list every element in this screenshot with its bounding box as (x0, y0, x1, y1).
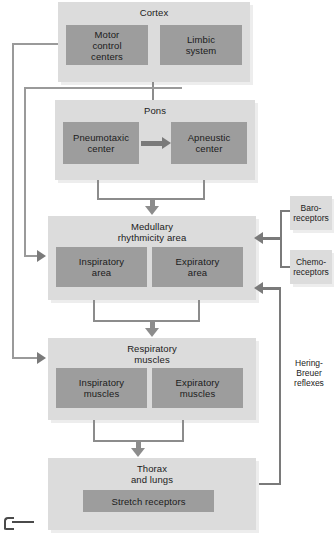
connector-medulla-join-bar (93, 320, 200, 322)
connector-hering-breuer-vertical (279, 289, 281, 485)
node-pons: Pons Pneumotaxic center Apneustic center (55, 100, 255, 180)
box-inspiratory-muscles: Inspiratory muscles (56, 368, 147, 408)
cortex-title: Cortex (58, 7, 250, 18)
arrow-medulla-to-muscles-head (145, 328, 159, 337)
connector-cortex-outer-vertical (12, 43, 14, 359)
connector-pons-drop-right (203, 180, 205, 200)
node-baroreceptors: Baro- receptors (290, 196, 332, 230)
connector-cortex-inner-vertical (24, 87, 26, 257)
medulla-title: Medullary rhythmicity area (48, 221, 256, 243)
respiration-regulation-diagram: Cortex Motor control centers Limbic syst… (0, 0, 334, 538)
thorax-title: Thorax and lungs (48, 463, 256, 485)
connector-cortex-outer-start (12, 43, 58, 45)
connector-pons-drop-left (97, 180, 99, 200)
box-expiratory-area: Expiratory area (152, 247, 243, 287)
pons-title: Pons (55, 105, 255, 116)
arrow-pneumotaxic-to-apneustic-head (162, 137, 171, 149)
scan-artifact-mark (4, 515, 38, 529)
node-cortex: Cortex Motor control centers Limbic syst… (58, 2, 250, 82)
node-thorax-and-lungs: Thorax and lungs Stretch receptors (48, 458, 256, 530)
box-motor-control-centers: Motor control centers (66, 25, 148, 65)
box-pneumotaxic-center: Pneumotaxic center (63, 122, 139, 164)
arrow-hering-breuer-to-medulla-head (254, 282, 263, 294)
box-stretch-receptors: Stretch receptors (83, 490, 214, 512)
connector-cortex-inner-to-medulla (24, 255, 38, 257)
arrow-muscles-to-thorax-head (131, 448, 145, 457)
connector-cortex-inner-start (24, 87, 182, 89)
arrow-cortex-to-muscles-head (37, 352, 46, 364)
box-inspiratory-area: Inspiratory area (56, 247, 147, 287)
baroreceptors-label: Baro- receptors (293, 203, 328, 223)
box-limbic-system: Limbic system (160, 25, 242, 65)
chemoreceptors-label: Chemo- receptors (293, 257, 328, 277)
scan-artifact-hook (4, 517, 14, 530)
box-apneustic-center: Apneustic center (171, 122, 247, 164)
arrow-cortex-to-medulla-head (37, 250, 46, 262)
box-expiratory-muscles: Expiratory muscles (152, 368, 243, 408)
arrow-receptors-to-medulla-head (254, 232, 263, 244)
node-respiratory-muscles: Respiratory muscles Inspiratory muscles … (48, 338, 256, 420)
scan-artifact-bar (12, 521, 34, 523)
muscles-title: Respiratory muscles (48, 343, 256, 365)
connector-muscles-drop-right (182, 420, 184, 442)
connector-cortex-outer-to-muscles (12, 357, 38, 359)
connector-medulla-drop-right (198, 300, 200, 322)
connector-muscles-drop-left (93, 420, 95, 442)
label-hering-breuer-reflexes: Hering- Breuer reflexes (286, 358, 332, 388)
connector-receptors-to-medulla (263, 237, 282, 240)
connector-cortex-to-pons (152, 82, 154, 100)
node-chemoreceptors: Chemo- receptors (290, 250, 332, 284)
node-medullary-rhythmicity-area: Medullary rhythmicity area Inspiratory a… (48, 216, 256, 300)
connector-pneumotaxic-to-apneustic (141, 141, 163, 146)
arrow-pons-to-medulla-head (145, 206, 159, 215)
connector-medulla-drop-left (93, 300, 95, 322)
